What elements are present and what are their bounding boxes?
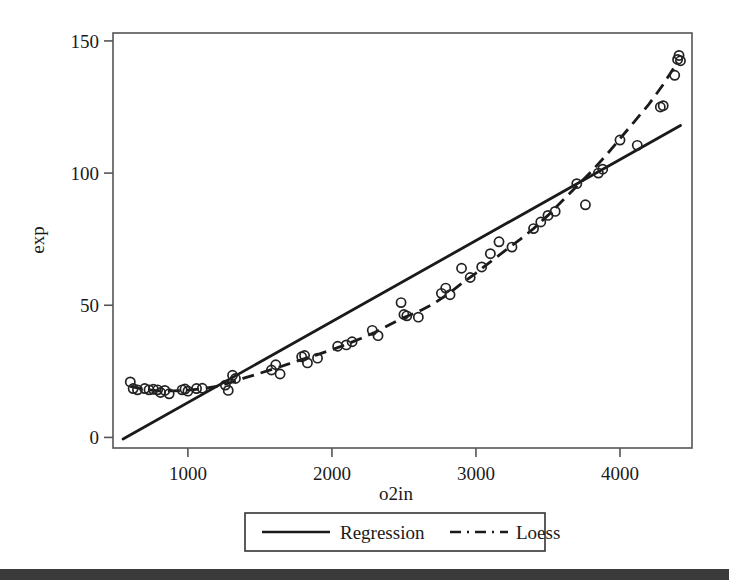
chart-figure: 050100150 1000200030004000 exp o2in Regr…: [0, 0, 729, 580]
x-axis-ticks: 1000200030004000: [169, 448, 639, 484]
legend-label-loess: Loess: [516, 522, 560, 543]
y-tick-label: 100: [71, 163, 100, 184]
legend: Regression Loess: [245, 513, 560, 551]
scatter-plot-svg: 050100150 1000200030004000 exp o2in Regr…: [0, 0, 729, 580]
y-tick-label: 50: [80, 295, 99, 316]
x-tick-label: 4000: [601, 463, 639, 484]
y-axis-title: exp: [27, 226, 48, 253]
x-tick-label: 2000: [313, 463, 351, 484]
y-tick-label: 0: [90, 427, 100, 448]
y-tick-label: 150: [71, 31, 100, 52]
y-axis-ticks: 050100150: [71, 31, 114, 448]
x-tick-label: 3000: [457, 463, 495, 484]
bottom-band: [0, 569, 729, 580]
x-tick-label: 1000: [169, 463, 207, 484]
legend-label-regression: Regression: [340, 522, 425, 543]
x-axis-title: o2in: [379, 483, 413, 504]
